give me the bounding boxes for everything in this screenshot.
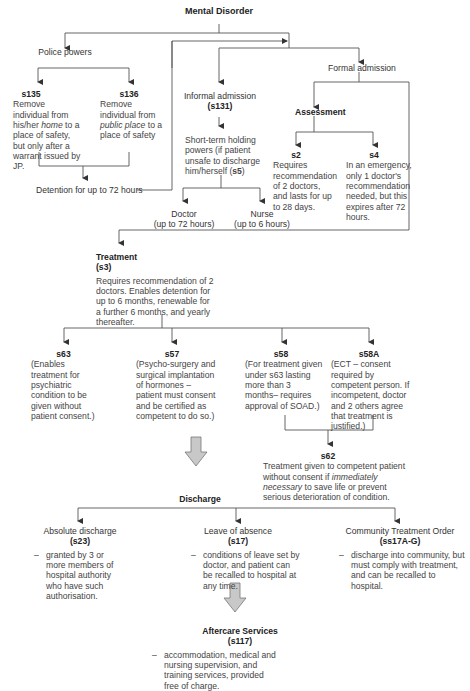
cto-label: Community Treatment Order	[335, 526, 465, 536]
community-treatment-order-node: Community Treatment Order (ss17A-G) –dis…	[335, 526, 465, 591]
s63-node: s63 (Enables treatment for psychiatric c…	[31, 349, 101, 421]
holding-powers-text: Short-term holding powers (if patient un…	[185, 135, 265, 176]
s57-code: s57	[136, 349, 208, 359]
aftercare-code: (s117)	[170, 636, 310, 646]
treatment-text: Requires recommendation of 2 doctors. En…	[96, 276, 216, 328]
cto-text: –discharge into community, but must comp…	[339, 550, 469, 591]
leave-of-absence-code: (s17)	[183, 536, 293, 546]
s57-node: s57 (Psycho-surgery and surgical implant…	[136, 349, 216, 421]
s2-node: s2 Requires recommendation of 2 doctors,…	[273, 150, 335, 212]
assessment-label: Assessment	[295, 107, 365, 117]
s58-node: s58 (For treatment given under s63 lasti…	[245, 349, 325, 411]
absolute-discharge-text: –granted by 3 or more members of hospita…	[34, 550, 119, 602]
formal-admission-label: Formal admission	[322, 63, 402, 73]
absolute-discharge-label: Absolute discharge	[25, 526, 135, 536]
s63-text: (Enables treatment for psychiatric condi…	[31, 359, 101, 421]
s4-text: In an emergency, only 1 doctor's recomme…	[346, 160, 412, 222]
treatment-label: Treatment	[96, 252, 216, 262]
treatment-code: (s3)	[96, 262, 216, 272]
absolute-discharge-node: Absolute discharge (s23) –granted by 3 o…	[25, 526, 135, 601]
discharge-label: Discharge	[165, 494, 235, 504]
s58-text: (For treatment given under s63 lasting m…	[245, 359, 325, 411]
s63-code: s63	[31, 349, 96, 359]
police-powers-label: Police powers	[25, 47, 105, 57]
s57-text: (Psycho-surgery and surgical implantatio…	[136, 359, 216, 421]
aftercare-text: –accommodation, medical and nursing supe…	[152, 650, 280, 691]
leave-of-absence-node: Leave of absence (s17) –conditions of le…	[183, 526, 293, 591]
s135-node: s135 Remove individual from his/her home…	[13, 89, 83, 172]
aftercare-node: Aftercare Services (s117) –accommodation…	[170, 626, 310, 691]
nurse-node: Nurse (up to 6 hours)	[228, 209, 296, 230]
s136-code: s136	[100, 89, 158, 99]
s135-code: s135	[13, 89, 49, 99]
s2-text: Requires recommendation of 2 doctors, an…	[273, 160, 335, 212]
mental-disorder-title: Mental Disorder	[169, 6, 269, 17]
absolute-discharge-code: (s23)	[25, 536, 135, 546]
leave-of-absence-label: Leave of absence	[183, 526, 293, 536]
aftercare-label: Aftercare Services	[170, 626, 310, 636]
s136-node: s136 Remove individual from public place…	[100, 89, 170, 141]
s58-code: s58	[245, 349, 317, 359]
nurse-limit: (up to 6 hours)	[228, 219, 296, 229]
treatment-node: Treatment (s3) Requires recommendation o…	[96, 252, 216, 327]
s136-text: Remove individual from public place to a…	[100, 99, 170, 140]
s62-node: s62 Treatment given to competent patient…	[263, 451, 408, 503]
s58a-text: (ECT – consent required by competent per…	[331, 359, 411, 431]
s4-node: s4 In an emergency, only 1 doctor's reco…	[346, 150, 412, 222]
s2-code: s2	[273, 150, 319, 160]
detention-72-label: Detention for up to 72 hours	[36, 185, 146, 195]
s58a-node: s58A (ECT – consent required by competen…	[331, 349, 411, 432]
leave-of-absence-text: –conditions of leave set by doctor, and …	[191, 550, 301, 591]
s58a-code: s58A	[331, 349, 407, 359]
s135-text: Remove individual from his/her home to a…	[13, 99, 83, 171]
s4-code: s4	[346, 150, 402, 160]
informal-admission-node: Informal admission (s131)	[180, 91, 260, 112]
informal-admission-code: (s131)	[180, 101, 260, 111]
s62-code: s62	[263, 451, 393, 461]
doctor-limit: (up to 72 hours)	[150, 219, 218, 229]
s62-text: Treatment given to competent patient wit…	[263, 461, 408, 502]
doctor-label: Doctor	[150, 209, 218, 219]
doctor-node: Doctor (up to 72 hours)	[150, 209, 218, 230]
informal-admission-label: Informal admission	[180, 91, 260, 101]
cto-code: (ss17A-G)	[335, 536, 465, 546]
